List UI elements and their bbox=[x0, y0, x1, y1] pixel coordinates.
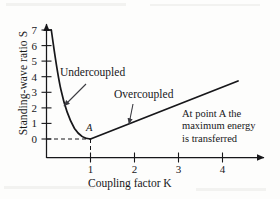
x-axis-title: Coupling factor K bbox=[88, 177, 172, 191]
point-a-marker-label: A bbox=[86, 122, 92, 134]
arrow-undercoupled bbox=[64, 84, 86, 106]
y-axis-title: Standing-wave ratio S bbox=[17, 13, 29, 153]
x-tick-label-4: 4 bbox=[217, 163, 229, 176]
arrow-overcoupled bbox=[129, 104, 133, 124]
figure-standing-wave-ratio: 7 6 5 4 3 2 1 0 1 2 3 4 Standing-wave ra… bbox=[0, 0, 280, 199]
x-tick-label-2: 2 bbox=[129, 163, 141, 176]
note-line-1: At point A the bbox=[182, 108, 256, 120]
x-tick-label-3: 3 bbox=[173, 163, 185, 176]
x-tick-label-1: 1 bbox=[85, 163, 97, 176]
annotation-undercoupled: Undercoupled bbox=[60, 66, 125, 80]
curve-undercoupled bbox=[51, 30, 90, 139]
note-line-2: maximum energy bbox=[182, 120, 256, 132]
annotation-overcoupled: Overcoupled bbox=[114, 88, 173, 102]
note-line-3: is transferred bbox=[182, 133, 256, 145]
annotation-point-a-note: At point A the maximum energy is transfe… bbox=[182, 108, 256, 145]
